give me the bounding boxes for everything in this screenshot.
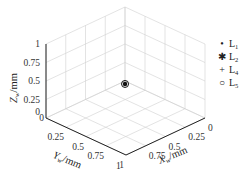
legend-item-l1: • L1: [220, 38, 238, 50]
z-axis-label: Zw/mm: [8, 73, 21, 103]
grid-lines: [46, 7, 205, 155]
svg-text:0.5: 0.5: [72, 142, 84, 152]
legend: • L1 ✱ L2 + L4 ○ L5: [218, 38, 239, 89]
svg-text:0.75: 0.75: [23, 58, 40, 68]
plus-marker-icon: +: [219, 64, 225, 75]
svg-text:L2: L2: [229, 51, 238, 63]
data-points: [122, 80, 129, 87]
svg-text:0.75: 0.75: [87, 151, 104, 161]
svg-text:L4: L4: [229, 64, 239, 76]
circle-marker-icon: ○: [219, 77, 225, 88]
svg-text:1: 1: [35, 39, 40, 49]
3d-scatter-plot: 00.250.50.75100.250.50.75100.250.50.751 …: [0, 0, 250, 175]
svg-text:0: 0: [39, 113, 44, 123]
y-axis-label: Yw/mm: [51, 149, 83, 172]
svg-text:0.5: 0.5: [28, 76, 40, 86]
svg-text:0.25: 0.25: [47, 132, 64, 142]
dot-marker-icon: •: [220, 38, 224, 49]
svg-text:0.25: 0.25: [23, 95, 40, 105]
legend-item-l2: ✱ L2: [218, 51, 238, 63]
asterisk-marker-icon: ✱: [218, 51, 226, 62]
svg-text:0: 0: [208, 123, 213, 133]
legend-item-l4: + L4: [219, 64, 239, 76]
svg-text:L5: L5: [229, 77, 238, 89]
svg-text:1: 1: [116, 161, 121, 171]
svg-text:L1: L1: [229, 38, 238, 50]
svg-text:0.25: 0.25: [188, 132, 205, 142]
legend-item-l5: ○ L5: [219, 77, 238, 89]
